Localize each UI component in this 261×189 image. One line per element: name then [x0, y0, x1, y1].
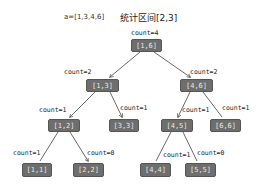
count-label-5-5: count=0: [197, 149, 224, 157]
count-label-root: count=4: [131, 29, 158, 37]
tree-node-4-4: [4,4]: [140, 163, 171, 177]
tree-node-1-1: [1,1]: [22, 163, 52, 177]
tree-node-1-3: [1,3]: [86, 79, 119, 92]
tree-node-4-6: [4,6]: [180, 79, 213, 92]
count-label-1-2: count=1: [39, 106, 66, 114]
tree-node-6-6: [6,6]: [210, 119, 241, 132]
tree-node-1-2: [1,2]: [48, 119, 80, 132]
count-label-4-4: count=1: [163, 151, 190, 159]
tree-node-3-3: [3,3]: [109, 119, 139, 132]
count-label-3-3: count=1: [120, 104, 147, 112]
count-label-6-6: count=1: [222, 104, 249, 112]
array-label: a=[1,3,4,6]: [64, 13, 104, 21]
count-label-1-1: count=1: [13, 149, 40, 157]
tree-node-4-5: [4,5]: [161, 119, 193, 132]
tree-node-2-2: [2,2]: [73, 163, 104, 177]
tree-node-5-5: [5,5]: [185, 163, 216, 177]
query-range-label: 统计区间[2,3]: [120, 11, 177, 24]
count-label-2-2: count=0: [87, 149, 114, 157]
tree-node-root: [1,6]: [131, 39, 162, 52]
count-label-4-6: count=2: [190, 68, 217, 76]
count-label-1-3: count=2: [64, 68, 91, 76]
count-label-4-5: count=1: [182, 106, 209, 114]
